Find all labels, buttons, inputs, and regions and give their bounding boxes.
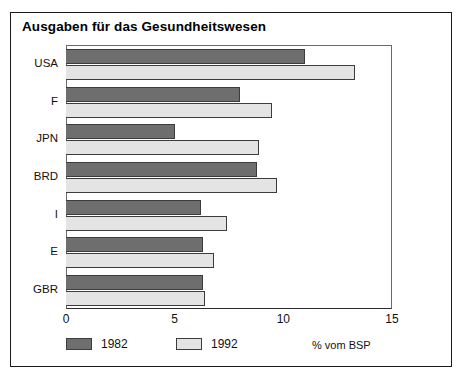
bar-gbr-1982	[66, 275, 203, 290]
bar-usa-1982	[66, 49, 305, 64]
bar-group-usa	[66, 49, 392, 81]
y-axis-label-usa: USA	[6, 57, 58, 69]
bar-i-1982	[66, 200, 201, 215]
legend-item-1992[interactable]: 1992	[176, 337, 238, 351]
bar-i-1992	[66, 216, 227, 231]
legend-label-1982: 1982	[101, 337, 128, 351]
bar-group-i	[66, 200, 392, 232]
bar-brd-1992	[66, 178, 277, 193]
bar-group-brd	[66, 162, 392, 194]
legend-swatch-1982	[66, 338, 92, 350]
bar-usa-1992	[66, 65, 355, 80]
y-axis-label-jpn: JPN	[6, 132, 58, 144]
bars-layer	[66, 45, 392, 309]
legend-item-1982[interactable]: 1982	[66, 337, 128, 351]
bar-e-1992	[66, 253, 214, 268]
x-axis-unit-label: % vom BSP	[312, 339, 371, 351]
bar-f-1982	[66, 87, 240, 102]
y-axis-label-i: I	[6, 208, 58, 220]
bar-group-jpn	[66, 124, 392, 156]
bar-jpn-1982	[66, 124, 175, 139]
y-axis-label-f: F	[6, 95, 58, 107]
bar-group-e	[66, 237, 392, 269]
x-axis-tick-15: 15	[385, 312, 398, 326]
y-axis-label-brd: BRD	[6, 170, 58, 182]
bar-gbr-1992	[66, 291, 205, 306]
bar-jpn-1992	[66, 140, 259, 155]
x-axis: 051015	[66, 310, 392, 332]
bar-brd-1982	[66, 162, 257, 177]
bar-f-1992	[66, 103, 272, 118]
chart-figure: Ausgaben für das Gesundheitswesen USAFJP…	[0, 0, 462, 385]
y-axis-label-gbr: GBR	[6, 283, 58, 295]
x-axis-tick-0: 0	[63, 312, 70, 326]
legend-label-1992: 1992	[211, 337, 238, 351]
legend-swatch-1992	[176, 338, 202, 350]
bar-group-gbr	[66, 275, 392, 307]
bar-group-f	[66, 87, 392, 119]
x-axis-tick-5: 5	[171, 312, 178, 326]
bar-e-1982	[66, 237, 203, 252]
page-title: Ausgaben für das Gesundheitswesen	[22, 19, 266, 34]
y-axis-labels: USAFJPNBRDIEGBR	[0, 45, 58, 309]
x-axis-tick-10: 10	[277, 312, 290, 326]
y-axis-label-e: E	[6, 245, 58, 257]
chart-legend: % vom BSP 19821992	[66, 337, 436, 359]
